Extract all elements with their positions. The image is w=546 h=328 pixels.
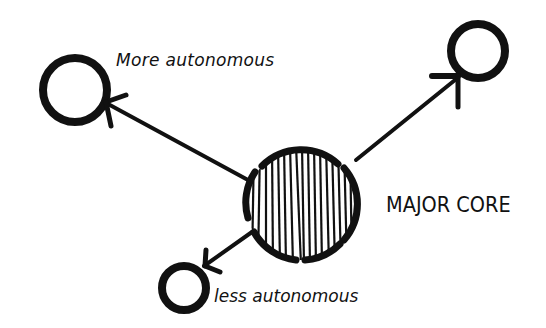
node-more-autonomous bbox=[43, 58, 126, 126]
node-top-right bbox=[432, 24, 505, 107]
edge-core-to-less-autonomous bbox=[204, 232, 252, 266]
label-less-autonomous: less autonomous bbox=[214, 286, 358, 306]
edge-core-to-top-right bbox=[356, 80, 455, 160]
node-major-core bbox=[246, 145, 358, 265]
label-major-core: MAJOR CORE bbox=[386, 193, 511, 217]
label-more-autonomous: More autonomous bbox=[116, 50, 274, 70]
edge-core-to-more-autonomous bbox=[108, 104, 248, 180]
